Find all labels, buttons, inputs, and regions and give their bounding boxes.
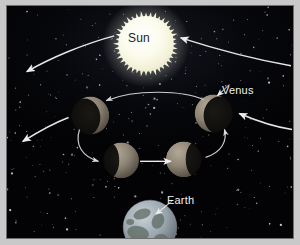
arrows-layer <box>7 6 293 238</box>
diagram-frame: Sun Venus Earth <box>0 0 300 245</box>
arrow-inner-orbit-top <box>106 92 203 100</box>
starfield-sky: Sun Venus Earth <box>6 5 294 239</box>
arrow-outer-arc-right <box>181 38 291 66</box>
arrow-inner-orbit-up-right <box>206 129 226 157</box>
label-venus: Venus <box>222 84 254 96</box>
arrow-outer-arc-left <box>27 36 114 72</box>
arrow-inner-orbit-down-left <box>78 129 98 161</box>
label-sun: Sun <box>128 31 150 45</box>
arrow-mid-arc-left <box>23 118 69 142</box>
label-earth: Earth <box>167 194 194 206</box>
arrow-mid-arc-right <box>239 114 292 130</box>
